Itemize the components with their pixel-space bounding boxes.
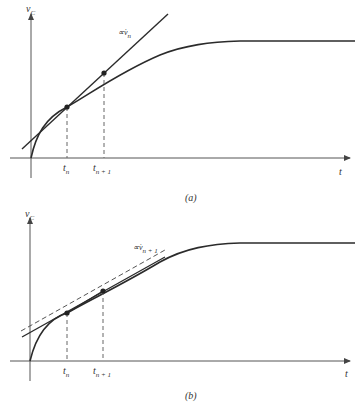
point-tn1 <box>101 70 106 75</box>
slope-label: ∝v̇n <box>118 28 132 40</box>
y-axis-label: vC <box>26 3 35 17</box>
response-curve <box>30 243 355 361</box>
tick-label-tn: tn <box>63 365 70 379</box>
slope-label: ∝v̇n + 1 <box>133 243 158 255</box>
tick-label-tn: tn <box>63 162 70 176</box>
caption-a: (a) <box>185 192 197 204</box>
panel-a: vC t tn tn + 1 ∝v̇n (a) <box>10 3 355 204</box>
slope-line-tn1 <box>21 250 165 331</box>
point-tn <box>64 310 69 315</box>
panel-b: vC t tn tn + 1 ∝v̇n + 1 (b) <box>10 208 355 402</box>
x-axis-label: t <box>345 368 348 379</box>
caption-b: (b) <box>185 390 197 402</box>
x-axis-label: t <box>339 166 342 177</box>
tangent-line <box>22 14 168 149</box>
point-tn <box>64 104 69 109</box>
response-curve <box>31 41 355 158</box>
forward-euler-diagram: vC t tn tn + 1 ∝v̇n (a) vC t t <box>0 0 364 407</box>
tick-label-tn1: tn + 1 <box>93 162 111 176</box>
tick-label-tn1: tn + 1 <box>93 365 111 379</box>
point-tn1 <box>100 288 105 293</box>
y-axis-label: vC <box>25 208 34 222</box>
